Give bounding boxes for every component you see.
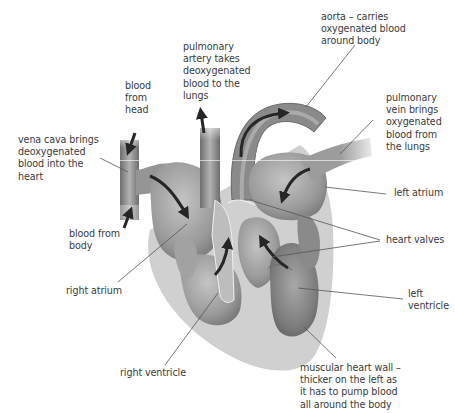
heart-diagram: aorta – carries oxygenated blood around …	[0, 0, 455, 413]
label-left-ventricle: left ventricle	[408, 288, 449, 312]
label-right-ventricle: right ventricle	[120, 367, 186, 379]
label-aorta: aorta – carries oxygenated blood around …	[321, 11, 406, 48]
label-pulmonary-artery: pulmonary artery takes deoxygenated bloo…	[183, 41, 250, 102]
label-heart-valves: heart valves	[386, 234, 444, 246]
label-blood-from-body: blood from body	[69, 228, 120, 252]
label-pulmonary-vein: pulmonary vein brings oxygenated blood f…	[386, 92, 442, 153]
label-blood-from-head: blood from head	[125, 80, 151, 117]
label-muscular-wall: muscular heart wall – thicker on the lef…	[300, 362, 401, 411]
label-right-atrium: right atrium	[66, 285, 122, 297]
label-vena-cava: vena cava brings deoxygenated blood into…	[18, 134, 99, 183]
label-left-atrium: left atrium	[394, 187, 443, 199]
